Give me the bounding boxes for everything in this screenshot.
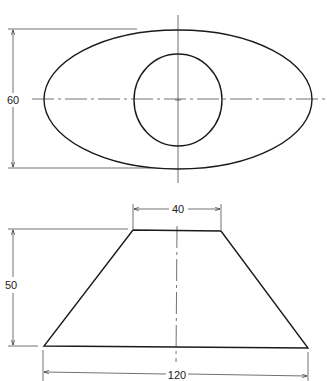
front-view: 40 50 120 <box>5 203 308 381</box>
dim-120-label: 120 <box>168 369 186 381</box>
dim-120-line-right <box>188 374 307 376</box>
dim-120-line-left <box>44 372 166 374</box>
top-view: 60 <box>7 15 327 183</box>
front-vertical-centerline <box>176 226 177 362</box>
dim-40-label: 40 <box>172 203 184 215</box>
dim-50-label: 50 <box>5 279 17 291</box>
engineering-drawing: 60 40 50 120 <box>0 0 327 381</box>
dim-60-label: 60 <box>7 94 19 106</box>
